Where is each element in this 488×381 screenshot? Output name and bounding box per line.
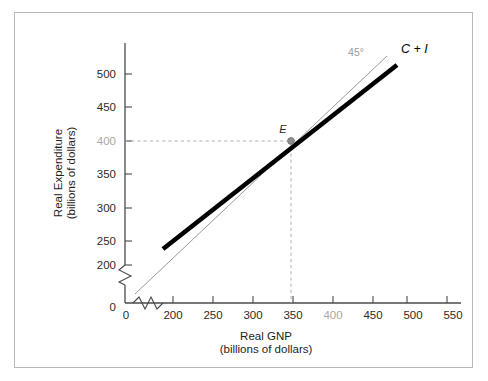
- x-tick-label-350: 350: [283, 309, 302, 321]
- equilibrium-point-label: E: [279, 123, 287, 135]
- forty-five-degree-line: [135, 56, 387, 294]
- figure-border-frame: 500 450 400 350 300 250 200 0 0 200 250 …: [14, 12, 473, 368]
- y-axis-break-mark: [119, 265, 131, 285]
- y-tick-label-500: 500: [97, 68, 116, 80]
- x-tick-label-500: 500: [403, 309, 422, 321]
- x-tick-label-0: 0: [123, 309, 129, 321]
- keynesian-cross-chart: 500 450 400 350 300 250 200 0 0 200 250 …: [15, 13, 472, 367]
- y-tick-label-350: 350: [97, 168, 116, 180]
- x-axis-title: Real GNP: [240, 330, 292, 342]
- x-tick-label-300: 300: [243, 309, 262, 321]
- y-tick-label-450: 450: [97, 101, 116, 113]
- figure-root: 500 450 400 350 300 250 200 0 0 200 250 …: [0, 0, 488, 381]
- y-tick-label-0: 0: [110, 301, 116, 313]
- x-tick-label-550: 550: [443, 309, 462, 321]
- y-tick-label-400: 400: [97, 135, 116, 147]
- y-axis-ticks: [125, 74, 132, 265]
- y-axis-title: Real Expenditure: [52, 129, 64, 217]
- equilibrium-point-dot: [288, 138, 295, 145]
- y-tick-label-200: 200: [97, 259, 116, 271]
- c-plus-i-line: [163, 65, 397, 249]
- x-axis-subtitle: (billions of dollars): [220, 343, 313, 355]
- y-axis-subtitle: (billions of dollars): [65, 126, 77, 219]
- forty-five-degree-label: 45°: [348, 46, 364, 58]
- x-tick-label-400: 400: [323, 309, 342, 321]
- x-tick-label-450: 450: [363, 309, 382, 321]
- y-tick-label-300: 300: [97, 202, 116, 214]
- x-tick-label-250: 250: [203, 309, 222, 321]
- y-tick-label-250: 250: [97, 235, 116, 247]
- c-plus-i-label: C + I: [401, 42, 428, 56]
- x-tick-label-200: 200: [163, 309, 182, 321]
- x-axis-ticks-extended: [407, 296, 461, 303]
- x-axis-ticks: [173, 296, 373, 303]
